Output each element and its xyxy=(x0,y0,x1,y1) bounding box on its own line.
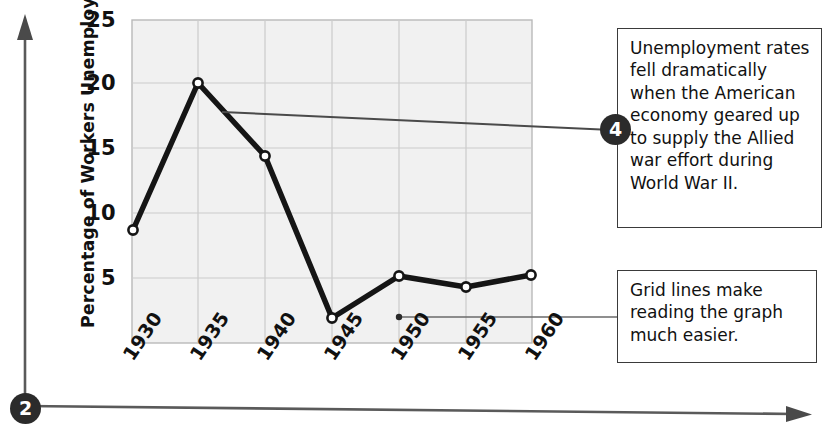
badge-2-axes: 2 xyxy=(10,393,41,424)
callout-war-text: Unemployment rates fell dramatically whe… xyxy=(630,38,809,193)
unemployment-line-chart-figure: 25 20 15 10 5 1930 1935 1940 1945 1950 1… xyxy=(0,0,837,440)
callout-war-note: Unemployment rates fell dramatically whe… xyxy=(617,28,822,228)
y-axis-title: Percentage of Workers Unemployed xyxy=(78,28,98,328)
badge-4-war-note: 4 xyxy=(600,114,631,145)
callout-grid-note: Grid lines make reading the graph much e… xyxy=(617,270,817,363)
callout-grid-text: Grid lines make reading the graph much e… xyxy=(630,280,783,345)
